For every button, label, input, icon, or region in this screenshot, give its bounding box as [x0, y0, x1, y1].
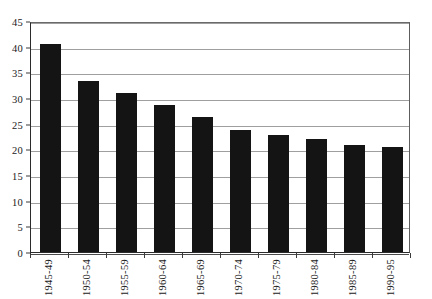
bar-chart-figure: 051015202530354045 1945-491950-541955-59…	[0, 0, 432, 299]
x-tick-mark	[258, 253, 259, 258]
x-tick-label: 1970-74	[233, 259, 244, 296]
x-tick-mark	[220, 253, 221, 258]
x-tick-mark	[372, 253, 373, 258]
x-tick-label: 1990-95	[385, 259, 396, 296]
x-tick-mark	[106, 253, 107, 258]
x-tick-mark	[182, 253, 183, 258]
bar	[154, 105, 175, 252]
x-tick-mark	[68, 253, 69, 258]
bar	[268, 135, 289, 252]
bar	[192, 117, 213, 252]
y-tick-label: 25	[12, 119, 23, 130]
x-tick-mark	[30, 253, 31, 258]
bar	[344, 145, 365, 252]
y-tick-label: 45	[12, 17, 23, 28]
x-tick-label: 1955-59	[119, 259, 130, 296]
x-tick-label: 1975-79	[271, 259, 282, 296]
y-tick-label: 30	[12, 94, 23, 105]
y-axis: 051015202530354045	[0, 22, 30, 253]
x-tick-label: 1965-69	[195, 259, 206, 296]
x-axis: 1945-491950-541955-591960-641965-691970-…	[30, 259, 410, 299]
y-tick-label: 20	[12, 145, 23, 156]
plot-area	[30, 22, 410, 253]
y-tick-label: 35	[12, 68, 23, 79]
x-tick-label: 1945-49	[43, 259, 54, 296]
y-tick-label: 10	[12, 196, 23, 207]
y-tick-label: 15	[12, 171, 23, 182]
x-tick-label: 1985-89	[347, 259, 358, 296]
bar	[382, 147, 403, 252]
x-tick-mark	[334, 253, 335, 258]
bars-series	[31, 23, 409, 252]
bar	[116, 93, 137, 252]
y-tick-label: 40	[12, 42, 23, 53]
x-tick-label: 1980-84	[309, 259, 320, 296]
bar	[306, 139, 327, 252]
x-tick-label: 1960-64	[157, 259, 168, 296]
x-tick-label: 1950-54	[81, 259, 92, 296]
bar	[40, 44, 61, 252]
x-tick-mark	[144, 253, 145, 258]
y-tick-label: 5	[18, 222, 23, 233]
bar	[78, 81, 99, 252]
y-tick-label: 0	[18, 248, 23, 259]
x-tick-mark	[410, 253, 411, 258]
bar	[230, 130, 251, 252]
x-tick-mark	[296, 253, 297, 258]
